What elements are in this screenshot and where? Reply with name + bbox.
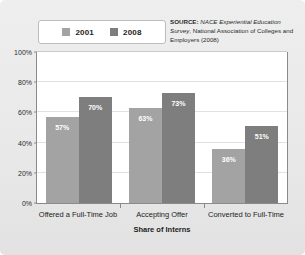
- bar-group: 36%51%: [204, 52, 287, 203]
- y-axis-tick-label: 0%: [22, 200, 32, 207]
- bar-value-label: 36%: [222, 156, 236, 163]
- y-axis-tick-label: 20%: [18, 169, 32, 176]
- bar-value-label: 73%: [171, 100, 185, 107]
- legend-item-2001: 2001: [62, 28, 94, 37]
- chart-figure: 2001 2008 SOURCE: NACE Experiential Educ…: [0, 0, 305, 255]
- plot-area: 0%20%40%60%80%100% 57%70%63%73%36%51%: [36, 52, 288, 204]
- bar-value-label: 70%: [88, 104, 102, 111]
- x-axis-separator-tick: [204, 203, 205, 208]
- bar-value-label: 63%: [138, 115, 152, 122]
- legend-label-2008: 2008: [123, 28, 142, 37]
- bar-group: 57%70%: [37, 52, 120, 203]
- chart-legend: 2001 2008: [38, 20, 166, 44]
- x-axis-title: Share of Interns: [36, 225, 288, 234]
- source-rest: , National Association of Colleges and E…: [170, 27, 293, 43]
- y-axis-tick-label: 40%: [18, 139, 32, 146]
- bar-2008-1[interactable]: 70%: [79, 97, 112, 203]
- source-note: SOURCE: NACE Experiential Education Surv…: [170, 18, 298, 45]
- bars-layer: 57%70%63%73%36%51%: [37, 52, 287, 203]
- bar-2008-3[interactable]: 51%: [245, 126, 278, 203]
- bar-group: 63%73%: [120, 52, 203, 203]
- y-axis-tick-label: 60%: [18, 109, 32, 116]
- y-axis-tick-label: 100%: [14, 49, 32, 56]
- legend-swatch-2008: [110, 28, 118, 36]
- y-axis-tick-label: 80%: [18, 79, 32, 86]
- x-axis-separator-tick: [120, 203, 121, 208]
- plot-frame: 0%20%40%60%80%100% 57%70%63%73%36%51% Of…: [36, 52, 288, 204]
- bar-value-label: 57%: [55, 124, 69, 131]
- legend-swatch-2001: [62, 28, 70, 36]
- source-label: SOURCE:: [170, 18, 199, 25]
- bar-2008-2[interactable]: 73%: [162, 93, 195, 203]
- bar-2001-3[interactable]: 36%: [212, 149, 245, 203]
- legend-item-2008: 2008: [110, 28, 142, 37]
- bar-2001-2[interactable]: 63%: [129, 108, 162, 203]
- x-axis-category-label: Converted to Full-Time: [196, 210, 296, 219]
- bar-value-label: 51%: [255, 133, 269, 140]
- bar-2001-1[interactable]: 57%: [46, 117, 79, 203]
- legend-label-2001: 2001: [75, 28, 94, 37]
